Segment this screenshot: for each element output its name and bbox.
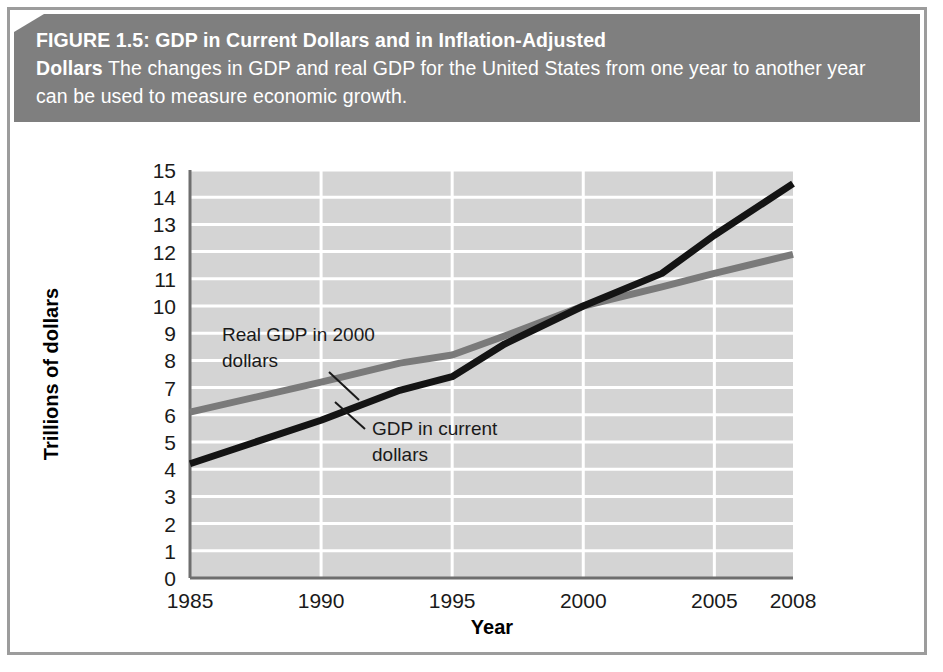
gdp-line-chart: 0123456789101112131415 19851990199520002…: [22, 130, 912, 646]
annotation-real-gdp-line1: Real GDP in 2000: [222, 324, 375, 345]
y-tick-9: 9: [164, 322, 176, 345]
figure-caption-text: FIGURE 1.5: GDP in Current Dollars and i…: [36, 26, 898, 110]
x-tick-2005: 2005: [691, 589, 738, 612]
figure-caption-body: The changes in GDP and real GDP for the …: [36, 57, 866, 107]
y-tick-0: 0: [164, 567, 176, 590]
y-tick-12: 12: [153, 241, 176, 264]
y-tick-3: 3: [164, 485, 176, 508]
y-tick-15: 15: [153, 159, 176, 182]
x-tick-2008: 2008: [770, 589, 817, 612]
y-tick-14: 14: [153, 186, 177, 209]
y-axis-title: Trillions of dollars: [40, 288, 62, 460]
y-tick-10: 10: [153, 295, 176, 318]
figure-root: FIGURE 1.5: GDP in Current Dollars and i…: [0, 0, 943, 672]
y-tick-11: 11: [154, 268, 176, 291]
y-tick-2: 2: [164, 513, 176, 536]
x-tick-1985: 1985: [167, 589, 214, 612]
x-tick-1990: 1990: [298, 589, 345, 612]
annotation-current-gdp-line2: dollars: [372, 444, 428, 465]
y-axis-tick-labels: 0123456789101112131415: [153, 159, 177, 590]
y-tick-1: 1: [164, 540, 176, 563]
annotation-real-gdp-line2: dollars: [222, 350, 278, 371]
y-tick-8: 8: [164, 349, 176, 372]
x-axis-tick-labels: 198519901995200020052008: [167, 589, 817, 612]
y-tick-6: 6: [164, 404, 176, 427]
y-tick-13: 13: [153, 213, 176, 236]
figure-caption-heading-line1: FIGURE 1.5: GDP in Current Dollars and i…: [36, 29, 606, 51]
figure-caption-banner: FIGURE 1.5: GDP in Current Dollars and i…: [14, 14, 920, 122]
annotation-current-gdp-line1: GDP in current: [372, 418, 498, 439]
chart-container: 0123456789101112131415 19851990199520002…: [22, 130, 912, 646]
y-tick-4: 4: [164, 458, 176, 481]
y-tick-7: 7: [164, 377, 176, 400]
x-tick-1995: 1995: [429, 589, 476, 612]
x-axis-title: Year: [471, 616, 513, 638]
plot-background: [190, 170, 793, 578]
y-tick-5: 5: [164, 431, 176, 454]
x-tick-2000: 2000: [560, 589, 607, 612]
figure-caption-heading-line2: Dollars: [36, 57, 103, 79]
